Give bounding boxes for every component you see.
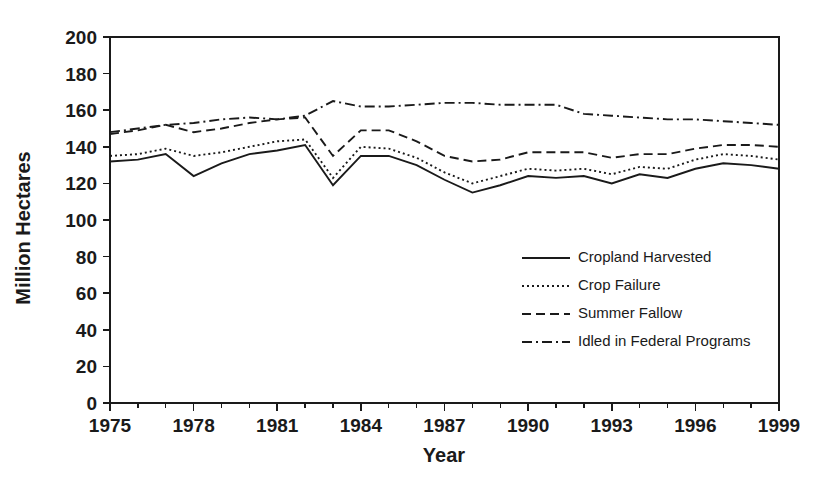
y-axis-tick-labels: 020406080100120140160180200 — [65, 27, 97, 414]
x-tick-label: 1981 — [256, 415, 299, 436]
legend-label: Summer Fallow — [578, 304, 682, 321]
y-tick-label: 40 — [76, 320, 97, 341]
legend-label: Cropland Harvested — [578, 248, 711, 265]
y-tick-label: 200 — [65, 27, 97, 48]
y-tick-label: 0 — [86, 393, 97, 414]
legend-label: Crop Failure — [578, 276, 661, 293]
series-line-crop-failure — [110, 139, 779, 183]
x-tick-label: 1987 — [423, 415, 465, 436]
y-tick-label: 80 — [76, 247, 97, 268]
data-series-group — [110, 101, 779, 193]
y-axis-ticks — [103, 37, 110, 403]
y-tick-label: 120 — [65, 173, 97, 194]
x-tick-label: 1984 — [340, 415, 383, 436]
x-tick-label: 1993 — [591, 415, 633, 436]
y-tick-label: 140 — [65, 137, 97, 158]
x-axis-title: Year — [423, 444, 465, 466]
legend-label: Idled in Federal Programs — [578, 332, 751, 349]
chart-container: 020406080100120140160180200 197519781981… — [0, 0, 839, 477]
y-tick-label: 100 — [65, 210, 97, 231]
line-chart-figure: 020406080100120140160180200 197519781981… — [0, 0, 839, 477]
y-tick-label: 160 — [65, 100, 97, 121]
x-axis-tick-labels: 197519781981198419871990199319961999 — [89, 415, 800, 436]
series-line-summer-fallow — [110, 118, 779, 162]
chart-legend: Cropland HarvestedCrop FailureSummer Fal… — [522, 248, 751, 349]
x-tick-label: 1999 — [758, 415, 800, 436]
y-tick-label: 180 — [65, 64, 97, 85]
y-tick-label: 20 — [76, 356, 97, 377]
y-axis-title: Million Hectares — [12, 151, 34, 304]
x-tick-label: 1996 — [674, 415, 716, 436]
series-line-idled-in-federal-programs — [110, 101, 779, 132]
x-tick-label: 1990 — [507, 415, 549, 436]
x-tick-label: 1978 — [172, 415, 214, 436]
x-tick-label: 1975 — [89, 415, 132, 436]
y-tick-label: 60 — [76, 283, 97, 304]
